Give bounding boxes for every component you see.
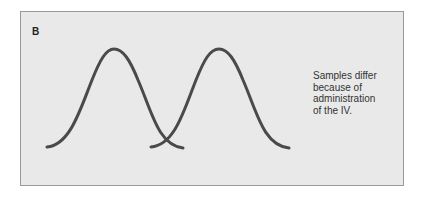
caption-line-3: administration (313, 93, 403, 105)
caption-line-4: of the IV. (313, 105, 403, 117)
caption: Samples differ because of administration… (313, 70, 403, 116)
sample-1-curve (47, 49, 183, 148)
caption-line-2: because of (313, 82, 403, 94)
sample-2-curve (151, 49, 289, 148)
caption-line-1: Samples differ (313, 70, 403, 82)
